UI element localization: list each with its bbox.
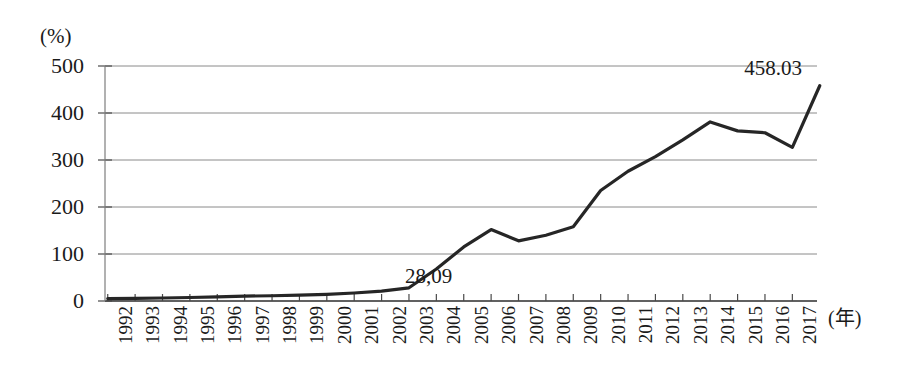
x-tick-label-2010: 2010 [608, 306, 630, 344]
line-chart: (%) 0100200300400500 1992199319941995199… [0, 0, 901, 375]
x-tick-label-2003: 2003 [416, 306, 438, 344]
x-tick-label-1997: 1997 [252, 306, 274, 344]
x-tick-label-2016: 2016 [772, 306, 794, 344]
x-tick-label-1994: 1994 [170, 306, 192, 344]
gridlines [98, 66, 817, 301]
x-tick-label-1996: 1996 [224, 306, 246, 344]
x-axis-unit-label: (年) [828, 302, 861, 331]
x-tick-label-1999: 1999 [306, 306, 328, 344]
x-tick-label-2002: 2002 [389, 306, 411, 344]
data-series-line [108, 86, 820, 299]
x-tick-label-2013: 2013 [690, 306, 712, 344]
x-tick-label-2012: 2012 [662, 306, 684, 344]
x-tick-label-2011: 2011 [635, 306, 657, 343]
x-tick-label-2015: 2015 [745, 306, 767, 344]
value-label-2017: 458.03 [744, 56, 802, 81]
x-tick-label-1993: 1993 [142, 306, 164, 344]
x-tick-label-2006: 2006 [498, 306, 520, 344]
x-tick-label-2000: 2000 [334, 306, 356, 344]
x-tick-label-1998: 1998 [279, 306, 301, 344]
x-tick-label-2005: 2005 [471, 306, 493, 344]
x-tick-label-2001: 2001 [361, 306, 383, 344]
x-tick-label-2007: 2007 [526, 306, 548, 344]
x-tick-label-2009: 2009 [580, 306, 602, 344]
x-axis-tick-labels: 1992199319941995199619971998199920002001… [0, 306, 901, 375]
value-label-2003: 28,09 [405, 264, 452, 289]
x-tick-label-1995: 1995 [197, 306, 219, 344]
x-tick-label-2014: 2014 [717, 306, 739, 344]
x-tick-label-2004: 2004 [443, 306, 465, 344]
x-tick-label-2017: 2017 [799, 306, 821, 344]
x-tick-label-2008: 2008 [553, 306, 575, 344]
x-tick-label-1992: 1992 [115, 306, 137, 344]
